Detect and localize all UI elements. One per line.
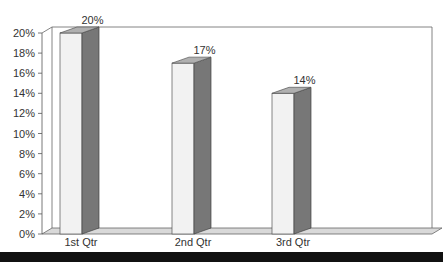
y-tick-label: 12%: [13, 107, 35, 119]
y-tick-label: 4%: [19, 188, 35, 200]
bar-chart: 0%2%4%6%8%10%12%14%16%18%20% 20%17%14% 1…: [0, 0, 443, 262]
x-axis: 1st Qtr2nd Qtr3rd Qtr: [64, 236, 310, 248]
y-axis: 0%2%4%6%8%10%12%14%16%18%20%: [13, 27, 42, 240]
y-tick-label: 20%: [13, 27, 35, 39]
chart-walls: [42, 27, 442, 234]
x-category-label: 3rd Qtr: [276, 236, 311, 248]
data-label: 14%: [293, 74, 315, 86]
bar-1: 20%: [60, 14, 104, 234]
y-tick-label: 14%: [13, 87, 35, 99]
y-tick-label: 18%: [13, 47, 35, 59]
y-tick-label: 8%: [19, 148, 35, 160]
y-tick-label: 16%: [13, 67, 35, 79]
y-tick-label: 6%: [19, 168, 35, 180]
y-tick-label: 10%: [13, 128, 35, 140]
data-label: 20%: [81, 14, 103, 26]
bar-3: 14%: [272, 74, 316, 234]
data-label: 17%: [193, 44, 215, 56]
bottom-border-bar: [0, 252, 443, 262]
y-tick-label: 0%: [19, 228, 35, 240]
bars: 20%17%14%: [60, 14, 316, 234]
y-tick-label: 2%: [19, 208, 35, 220]
bar-2: 17%: [172, 44, 216, 234]
x-category-label: 2nd Qtr: [175, 236, 212, 248]
x-category-label: 1st Qtr: [64, 236, 97, 248]
